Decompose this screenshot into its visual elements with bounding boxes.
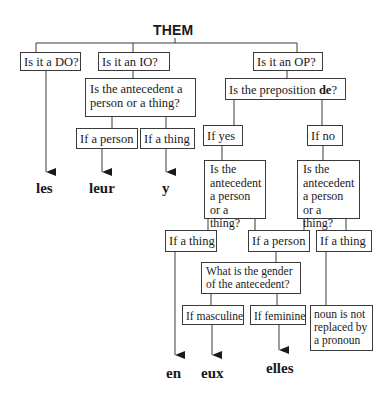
answer-elles: elles [266, 360, 294, 377]
branch-person: If a person [248, 230, 310, 252]
branch-no-thing: If a thing [316, 230, 372, 252]
answer-leur: leur [89, 180, 115, 197]
question-io-antecedent: Is the antecedent a person or a thing? [85, 78, 196, 117]
preposition-suffix: ? [331, 83, 337, 97]
question-yes-antecedent: Is the antecedent a person or a thing? [204, 160, 266, 219]
question-gender: What is the gender of the antecedent? [201, 262, 301, 294]
answer-eux: eux [201, 365, 224, 382]
branch-masculine: If masculine [182, 305, 244, 325]
branch-io-thing: If a thing [140, 128, 195, 149]
preposition-prefix: Is the preposition [229, 83, 319, 97]
question-direct-object: Is it a DO? [20, 52, 81, 71]
question-object-of-preposition: Is it an OP? [253, 52, 323, 71]
pronoun-decision-tree: THEM Is it a DO? Is it an IO? Is it an O… [0, 0, 392, 398]
branch-yes-thing: If a thing [165, 230, 217, 252]
branch-io-person: If a person [76, 128, 138, 149]
preposition-keyword: de [319, 83, 332, 97]
root-title: THEM [153, 22, 193, 38]
question-no-antecedent: Is the antecedent a person or a thing? [297, 160, 360, 219]
answer-y: y [162, 180, 170, 197]
branch-no: If no [307, 125, 343, 146]
question-indirect-object: Is it an IO? [98, 52, 170, 71]
branch-feminine: If feminine [250, 305, 306, 325]
outcome-no-replacement: noun is not replaced by a pronoun [310, 305, 373, 351]
answer-les: les [36, 180, 53, 197]
question-preposition-de: Is the preposition de? [225, 78, 346, 100]
branch-yes: If yes [203, 125, 243, 146]
answer-en: en [166, 365, 181, 382]
